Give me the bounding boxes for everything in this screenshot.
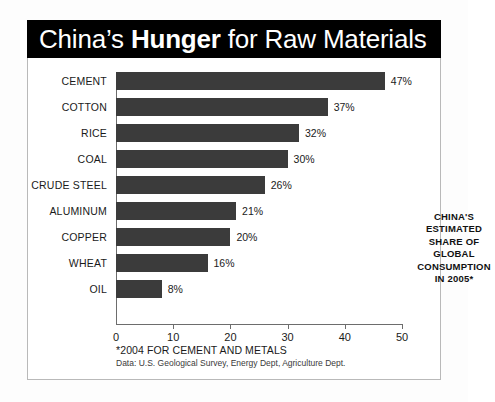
title-banner: China’s Hunger for Raw Materials [27,20,441,58]
bar [116,98,328,116]
footnote-source: Data: U.S. Geological Survey, Energy Dep… [116,358,426,368]
x-axis-tick-label: 40 [339,331,351,343]
bar [116,280,162,298]
annotation-callout: CHINA'SESTIMATEDSHARE OFGLOBALCONSUMPTIO… [402,211,495,285]
bar-category-label: COAL [78,150,107,168]
bar [116,124,299,142]
bar-row: CRUDE STEEL26% [116,176,406,202]
annotation-line: SHARE OF [402,236,495,248]
bar-category-label: ALUMINUM [49,202,107,220]
bar-value-label: 37% [334,98,355,116]
x-axis-line [116,324,402,325]
bar-category-label: COTTON [62,98,107,116]
annotation-line: CONSUMPTION [402,261,495,273]
bar-row: COAL30% [116,150,406,176]
x-axis-tick-label: 30 [281,331,293,343]
bar-row: COTTON37% [116,98,406,124]
bar-row: RICE32% [116,124,406,150]
x-axis-tick-label: 0 [113,331,119,343]
title-suffix: for Raw Materials [221,24,427,54]
bar-value-label: 16% [214,254,235,272]
bar [116,72,385,90]
bars-container: CEMENT47%COTTON37%RICE32%COAL30%CRUDE ST… [116,72,406,306]
bar-row: CEMENT47% [116,72,406,98]
x-axis-tick [345,324,346,329]
x-axis-tick-label: 50 [396,331,408,343]
bar-row: OIL8% [116,280,406,306]
annotation-line: CHINA'S [402,211,495,223]
x-axis-tick [402,324,403,329]
annotation-line: IN 2005* [402,273,495,285]
bar [116,202,236,220]
bar [116,176,265,194]
annotation-line: GLOBAL [402,248,495,260]
x-axis-tick [173,324,174,329]
x-axis-tick [288,324,289,329]
chart-frame: CEMENT47%COTTON37%RICE32%COAL30%CRUDE ST… [27,58,441,380]
bar [116,228,230,246]
bar-category-label: WHEAT [69,254,107,272]
x-axis-tick [230,324,231,329]
bar-category-label: CRUDE STEEL [31,176,107,194]
bar-value-label: 21% [242,202,263,220]
bar-category-label: CEMENT [61,72,107,90]
bar-category-label: OIL [89,280,107,298]
bar [116,254,208,272]
bar-category-label: RICE [81,124,107,142]
bar-value-label: 30% [294,150,315,168]
title-prefix: China’s [39,24,131,54]
bar-value-label: 20% [236,228,257,246]
title-emphasis: Hunger [131,24,221,54]
page-title: China’s Hunger for Raw Materials [39,26,427,52]
footnote-primary: *2004 FOR CEMENT AND METALS [116,344,426,356]
bar-row: ALUMINUM21% [116,202,406,228]
bar-value-label: 47% [391,72,412,90]
bar-value-label: 26% [271,176,292,194]
annotation-line: ESTIMATED [402,223,495,235]
footnote-block: *2004 FOR CEMENT AND METALS Data: U.S. G… [116,344,426,368]
bar [116,150,288,168]
x-axis-tick-label: 10 [167,331,179,343]
bar-value-label: 8% [168,280,183,298]
bar-row: COPPER20% [116,228,406,254]
bar-value-label: 32% [305,124,326,142]
x-axis-tick-label: 20 [224,331,236,343]
plot-area: CEMENT47%COTTON37%RICE32%COAL30%CRUDE ST… [116,72,406,324]
bar-category-label: COPPER [61,228,107,246]
bar-row: WHEAT16% [116,254,406,280]
